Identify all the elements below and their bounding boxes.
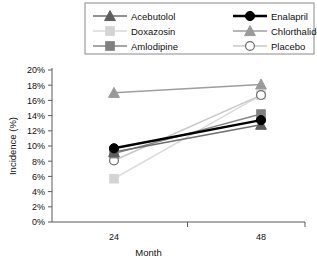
legend-item-amlodipine: Amlodipine (93, 41, 178, 52)
legend-item-doxazosin: Doxazosin (93, 26, 175, 37)
datapoint-doxazosin-24 (110, 174, 119, 183)
legend-marker (245, 11, 254, 20)
y-axis-title: Incidence (%) (7, 117, 18, 175)
legend-item-chlorthalidone: Chlorthalidone (233, 26, 317, 37)
legend-marker (246, 42, 255, 51)
y-tick-label-8%: 8% (32, 157, 45, 167)
legend-item-acebutolol: Acebutolol (93, 11, 175, 22)
datapoint-enalapril-24 (109, 144, 118, 153)
y-tick-label-6%: 6% (32, 172, 45, 182)
series-line-doxazosin (114, 95, 261, 179)
x-axis: 2448Month (52, 222, 305, 258)
y-tick-label-0%: 0% (32, 217, 45, 227)
legend-label-placebo: Placebo (271, 41, 305, 52)
series-acebutolol (109, 119, 267, 156)
y-tick-label-14%: 14% (27, 111, 45, 121)
datapoint-enalapril-48 (256, 116, 265, 125)
legend-marker (106, 42, 115, 51)
incidence-line-chart: AcebutololEnalaprilDoxazosinChlorthalido… (0, 0, 317, 271)
y-tick-label-2%: 2% (32, 202, 45, 212)
x-tick-label-48: 48 (256, 232, 266, 242)
chart-container: AcebutololEnalaprilDoxazosinChlorthalido… (0, 0, 317, 271)
series-line-enalapril (114, 120, 261, 148)
series-enalapril (109, 116, 265, 153)
legend-label-doxazosin: Doxazosin (131, 26, 175, 37)
series-line-acebutolol (114, 125, 261, 152)
x-axis-title: Month (135, 247, 161, 258)
series-line-placebo (114, 95, 261, 160)
series-chlorthalidone (109, 79, 267, 97)
legend-item-placebo: Placebo (233, 41, 305, 52)
y-tick-label-10%: 10% (27, 141, 45, 151)
series-line-chlorthalidone (114, 84, 261, 92)
legend-marker (106, 27, 115, 36)
y-tick-label-18%: 18% (27, 81, 45, 91)
y-tick-label-16%: 16% (27, 96, 45, 106)
x-tick-label-24: 24 (109, 232, 119, 242)
legend-label-acebutolol: Acebutolol (131, 11, 175, 22)
y-tick-label-20%: 20% (27, 65, 45, 75)
y-axis: 0%2%4%6%8%10%12%14%16%18%20% (27, 65, 52, 227)
series-layer (109, 79, 267, 183)
datapoint-placebo-48 (257, 91, 266, 100)
y-tick-label-4%: 4% (32, 187, 45, 197)
legend-label-amlodipine: Amlodipine (131, 41, 178, 52)
legend-item-enalapril: Enalapril (233, 11, 308, 22)
series-doxazosin (110, 91, 266, 183)
legend-label-chlorthalidone: Chlorthalidone (271, 26, 317, 37)
legend-label-enalapril: Enalapril (271, 11, 308, 22)
chart-legend: AcebutololEnalaprilDoxazosinChlorthalido… (85, 3, 317, 54)
y-tick-label-12%: 12% (27, 126, 45, 136)
